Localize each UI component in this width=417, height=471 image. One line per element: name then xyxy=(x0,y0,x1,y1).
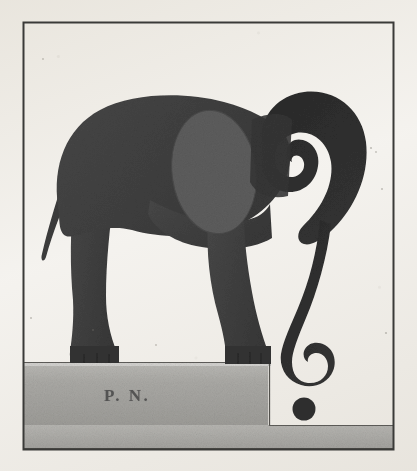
artist-signature: P. N. xyxy=(104,386,150,406)
elephant-forefoot xyxy=(225,346,271,364)
pedestal-group xyxy=(24,362,393,449)
elephant-figure xyxy=(41,92,366,387)
question-mark-dot xyxy=(293,398,316,421)
ground-strip xyxy=(24,425,393,449)
elephant-hindfoot xyxy=(70,346,119,363)
illustration-plate: P. N. xyxy=(0,0,417,471)
head-body-junction xyxy=(250,114,292,197)
artwork-canvas xyxy=(0,0,417,471)
elephant-trunk xyxy=(281,220,335,386)
